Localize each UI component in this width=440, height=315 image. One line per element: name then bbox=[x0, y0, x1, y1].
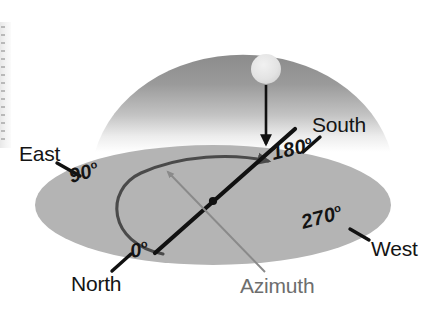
label-west: West bbox=[371, 238, 418, 259]
degree-marker-north: 0o bbox=[128, 238, 150, 261]
label-east: East bbox=[19, 143, 60, 164]
celestial-hemisphere bbox=[95, 55, 391, 152]
observer-dot bbox=[209, 197, 217, 205]
label-south: South bbox=[312, 114, 366, 135]
label-azimuth: Azimuth bbox=[240, 275, 314, 296]
sun-disc bbox=[251, 54, 281, 84]
north-leader-line bbox=[112, 254, 131, 271]
label-north: North bbox=[71, 273, 121, 294]
figure-canvas: East South West North Azimuth 90o 180o 2… bbox=[0, 0, 440, 315]
celestial-sphere-diagram bbox=[0, 0, 440, 315]
